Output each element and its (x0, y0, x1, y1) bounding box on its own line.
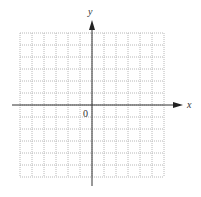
y-axis-label: y (87, 6, 93, 17)
y-axis-arrow-icon (89, 20, 95, 30)
x-axis-label: x (186, 99, 192, 110)
x-axis-arrow-icon (173, 102, 183, 108)
coordinate-plane: x y 0 (0, 0, 201, 197)
origin-label: 0 (83, 108, 88, 119)
